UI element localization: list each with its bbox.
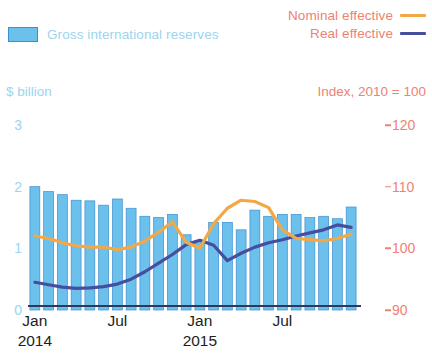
x-axis-label: Jul (272, 312, 292, 330)
legend-item-nominal: Nominal effective (288, 8, 426, 23)
legend-item-real: Real effective (310, 26, 426, 41)
legend-lines: Nominal effective Real effective (288, 8, 426, 41)
bar (71, 200, 81, 310)
right-tick-label: 120 (392, 117, 432, 133)
legend-bars-label: Gross international reserves (47, 27, 219, 42)
left-tick-label: 1 (2, 240, 22, 256)
bar (57, 195, 67, 310)
right-tick-label: 100 (392, 240, 432, 256)
legend-bars: Gross international reserves (8, 27, 219, 42)
x-axis-label: Jul (107, 312, 127, 330)
bar (209, 222, 219, 310)
legend-real-rule (400, 32, 426, 35)
bar (44, 192, 54, 310)
legend-bar-swatch (8, 27, 38, 42)
bar (140, 216, 150, 310)
x-axis-label-month: Jul (272, 312, 292, 330)
right-axis-title: Index, 2010 = 100 (318, 84, 426, 99)
bar (195, 240, 205, 310)
plot-svg (28, 118, 358, 310)
bar (222, 222, 232, 310)
x-axis-label-month: Jan (18, 312, 52, 330)
bar (332, 219, 342, 310)
bar (112, 199, 122, 310)
bar (291, 214, 301, 310)
right-tick-dash (385, 124, 391, 126)
x-axis-label-year: 2015 (183, 332, 217, 350)
x-axis-label-month: Jan (183, 312, 217, 330)
plot-area (28, 118, 358, 310)
legend-nominal-label: Nominal effective (288, 8, 393, 23)
right-tick-label: 110 (392, 179, 432, 195)
x-axis-line (28, 305, 361, 307)
bar-series (30, 187, 356, 310)
bar (99, 205, 109, 310)
bar (236, 230, 246, 310)
legend-nominal-rule (400, 14, 426, 17)
bar (264, 216, 274, 310)
x-axis-label-month: Jul (107, 312, 127, 330)
legend-real-label: Real effective (310, 26, 393, 41)
bar (126, 208, 136, 310)
bar (250, 210, 260, 310)
right-tick-dash (385, 248, 391, 250)
left-axis-title: $ billion (6, 84, 52, 99)
right-tick-dash (385, 186, 391, 188)
x-axis-label-year: 2014 (18, 332, 52, 350)
x-axis-label: Jan2014 (18, 312, 52, 350)
right-tick-dash (385, 309, 391, 311)
left-tick-label: 2 (2, 179, 22, 195)
chart-container: Gross international reserves Nominal eff… (0, 0, 432, 359)
left-tick-label: 3 (2, 117, 22, 133)
x-axis-label: Jan2015 (183, 312, 217, 350)
line-series-real (35, 225, 351, 289)
x-axis-labels: Jan2014JulJan2015Jul (0, 312, 432, 359)
bar (346, 207, 356, 310)
bar (30, 187, 40, 310)
bar (85, 201, 95, 310)
